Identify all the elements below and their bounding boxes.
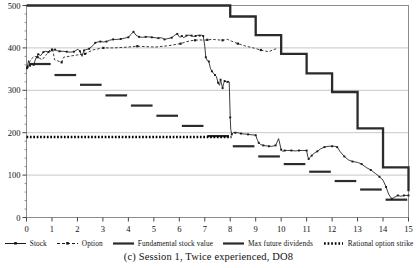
stock-marker xyxy=(311,155,313,157)
legend-key-thick-line-icon xyxy=(222,239,245,248)
option-marker xyxy=(84,53,86,55)
stock-marker xyxy=(385,186,387,188)
legend-key-thick-line-icon xyxy=(112,239,135,248)
x-axis-label-1: 1 xyxy=(42,224,62,234)
stock-marker xyxy=(26,67,28,69)
legend-item-2[interactable]: Fundamental stock value xyxy=(112,239,213,248)
stock-marker xyxy=(379,176,381,178)
x-axis-label-6: 6 xyxy=(169,224,189,234)
option-marker xyxy=(206,39,208,41)
stock-marker xyxy=(370,169,372,171)
y-axis-label-100: 100 xyxy=(0,170,21,180)
option-marker xyxy=(260,49,262,51)
series-max-future-dividends xyxy=(27,6,409,192)
x-axis-label-11: 11 xyxy=(297,224,317,234)
stock-marker xyxy=(54,49,56,51)
stock-marker xyxy=(408,195,410,197)
stock-marker xyxy=(79,50,81,52)
y-axis-label-300: 300 xyxy=(0,85,21,95)
stock-marker xyxy=(127,36,129,38)
stock-marker xyxy=(94,42,96,44)
stock-marker xyxy=(290,150,292,152)
legend-item-0[interactable]: Stock xyxy=(4,239,47,248)
stock-marker xyxy=(217,82,219,84)
stock-marker xyxy=(391,198,393,200)
figure: StockOptionFundamental stock valueMax fu… xyxy=(0,0,417,268)
x-axis-label-15: 15 xyxy=(399,224,417,234)
stock-marker xyxy=(222,87,224,89)
series-stock xyxy=(27,32,408,199)
stock-marker xyxy=(33,64,35,66)
legend-label: Stock xyxy=(30,239,47,248)
y-axis-label-500: 500 xyxy=(0,1,21,11)
stock-marker xyxy=(191,35,193,37)
x-axis-label-4: 4 xyxy=(118,224,138,234)
stock-marker xyxy=(171,37,173,39)
chart-legend: StockOptionFundamental stock valueMax fu… xyxy=(0,236,417,251)
option-marker xyxy=(102,47,104,49)
stock-marker xyxy=(205,56,207,58)
stock-marker xyxy=(280,149,282,151)
stock-marker xyxy=(268,145,270,147)
stock-marker xyxy=(234,132,236,134)
stock-marker xyxy=(59,50,61,52)
stock-marker xyxy=(247,133,249,135)
legend-key-dashed-marker-icon xyxy=(56,239,79,248)
stock-marker xyxy=(88,48,90,50)
stock-marker xyxy=(157,37,159,39)
stock-marker xyxy=(120,38,122,40)
stock-marker xyxy=(195,35,197,37)
stock-marker xyxy=(220,79,222,81)
y-axis-label-400: 400 xyxy=(0,43,21,53)
legend-label: Fundamental stock value xyxy=(138,239,213,248)
stock-marker xyxy=(73,51,75,53)
figure-caption: (c) Session 1, Twice experienced, DO8 xyxy=(0,251,417,262)
stock-marker xyxy=(37,53,39,55)
stock-marker xyxy=(99,41,101,43)
stock-marker xyxy=(229,116,231,118)
legend-item-1[interactable]: Option xyxy=(56,239,103,248)
stock-marker xyxy=(352,161,354,163)
stock-marker xyxy=(262,144,264,146)
legend-label: Max future dividends xyxy=(248,239,313,248)
option-marker xyxy=(237,43,239,45)
x-axis-label-0: 0 xyxy=(17,224,37,234)
stock-marker xyxy=(138,36,140,38)
option-marker xyxy=(61,61,63,63)
stock-marker xyxy=(308,158,310,160)
legend-item-4[interactable]: Rational option strike xyxy=(322,239,413,248)
legend-label: Option xyxy=(82,239,103,248)
stock-marker xyxy=(112,38,114,40)
x-axis-label-8: 8 xyxy=(220,224,240,234)
legend-key-line-marker-icon xyxy=(4,239,27,248)
x-axis-label-9: 9 xyxy=(246,224,266,234)
option-marker xyxy=(221,39,223,41)
stock-marker xyxy=(275,144,277,146)
stock-marker xyxy=(145,36,147,38)
stock-marker xyxy=(284,150,286,152)
legend-label: Rational option strike xyxy=(348,239,413,248)
stock-marker xyxy=(255,134,257,136)
option-marker xyxy=(136,45,138,47)
legend-item-3[interactable]: Max future dividends xyxy=(222,239,313,248)
stock-marker xyxy=(211,70,213,72)
stock-marker xyxy=(258,142,260,144)
stock-marker xyxy=(185,35,187,37)
stock-marker xyxy=(397,195,399,197)
y-axis-label-0: 0 xyxy=(0,213,21,223)
stock-marker xyxy=(151,36,153,38)
stock-marker xyxy=(164,38,166,40)
stock-marker xyxy=(202,35,204,37)
stock-marker xyxy=(231,133,233,135)
stock-marker xyxy=(343,155,345,157)
legend-key-dotted-line-icon xyxy=(322,239,345,248)
y-axis-label-200: 200 xyxy=(0,128,21,138)
stock-marker xyxy=(106,41,108,43)
x-axis-label-13: 13 xyxy=(348,224,368,234)
x-axis-label-5: 5 xyxy=(144,224,164,234)
stock-marker xyxy=(29,65,31,67)
stock-marker xyxy=(208,61,210,63)
plot-frame xyxy=(27,6,409,218)
stock-marker xyxy=(214,74,216,76)
x-axis-label-12: 12 xyxy=(322,224,342,234)
